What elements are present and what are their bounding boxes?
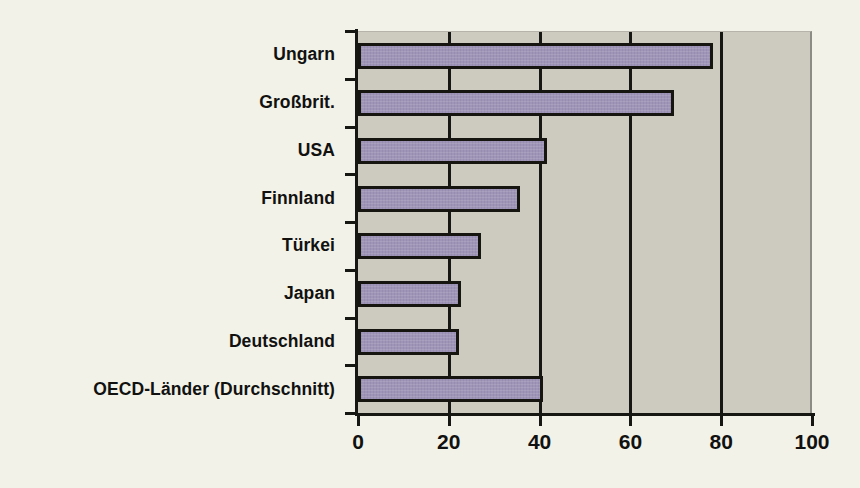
x-axis-tick-20 bbox=[448, 413, 451, 426]
bar-ungarn bbox=[358, 43, 713, 69]
bar-slot-japan bbox=[358, 270, 810, 318]
x-axis-tick-60 bbox=[629, 413, 632, 426]
bar-slot-tuerkei bbox=[358, 223, 810, 271]
y-axis-tick-7 bbox=[345, 364, 357, 367]
x-axis-line bbox=[355, 413, 815, 416]
x-axis-tick-100 bbox=[811, 413, 814, 426]
x-axis-tick-80 bbox=[720, 413, 723, 426]
bar-slot-ungarn bbox=[358, 32, 810, 80]
y-axis-tick-3 bbox=[345, 173, 357, 176]
y-axis-label-ungarn: Ungarn bbox=[0, 31, 345, 79]
bar-chart: Ungarn Großbrit. USA Finnland Türkei Jap… bbox=[0, 0, 860, 488]
x-axis-tick-label-60: 60 bbox=[619, 430, 642, 454]
bar-slot-usa bbox=[358, 127, 810, 175]
bar-slot-oecd bbox=[358, 365, 810, 413]
bar-japan bbox=[358, 281, 461, 307]
bar-oecd bbox=[358, 376, 543, 402]
bar-slot-deutschland bbox=[358, 318, 810, 366]
y-axis-label-japan: Japan bbox=[0, 270, 345, 318]
x-axis-tick-label-40: 40 bbox=[528, 430, 551, 454]
bar-usa bbox=[358, 138, 547, 164]
bar-finnland bbox=[358, 186, 520, 212]
y-axis-tick-0 bbox=[345, 30, 357, 33]
y-axis-tick-1 bbox=[345, 78, 357, 81]
y-axis-label-grossbrit: Großbrit. bbox=[0, 79, 345, 127]
y-axis-label-oecd: OECD-Länder (Durchschnitt) bbox=[0, 365, 345, 413]
y-axis-category-labels: Ungarn Großbrit. USA Finnland Türkei Jap… bbox=[0, 31, 345, 413]
bar-grossbrit bbox=[358, 90, 674, 116]
y-axis-tick-5 bbox=[345, 269, 357, 272]
x-axis-tick-40 bbox=[539, 413, 542, 426]
y-axis-label-deutschland: Deutschland bbox=[0, 318, 345, 366]
y-axis-label-tuerkei: Türkei bbox=[0, 222, 345, 270]
x-axis-tick-label-80: 80 bbox=[710, 430, 733, 454]
y-axis-label-usa: USA bbox=[0, 127, 345, 175]
bar-slot-finnland bbox=[358, 175, 810, 223]
y-axis-tick-6 bbox=[345, 317, 357, 320]
y-axis-tick-8 bbox=[345, 412, 357, 415]
x-axis-tick-label-100: 100 bbox=[794, 430, 829, 454]
x-axis-tick-0 bbox=[357, 413, 360, 426]
x-axis-tick-label-0: 0 bbox=[352, 430, 364, 454]
bar-slot-grossbrit bbox=[358, 80, 810, 128]
bar-deutschland bbox=[358, 329, 459, 355]
bar-series bbox=[358, 32, 810, 413]
y-axis-tick-4 bbox=[345, 221, 357, 224]
y-axis-tick-2 bbox=[345, 126, 357, 129]
plot-area bbox=[358, 31, 812, 413]
y-axis-label-finnland: Finnland bbox=[0, 174, 345, 222]
x-axis-tick-label-20: 20 bbox=[437, 430, 460, 454]
bar-tuerkei bbox=[358, 233, 481, 259]
